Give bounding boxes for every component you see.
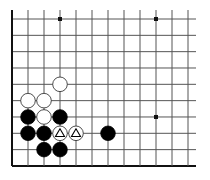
star-point-icon: [154, 115, 158, 119]
black-stone-icon: [21, 110, 36, 125]
black-stone: [53, 110, 68, 125]
black-stone-icon: [37, 126, 52, 141]
black-stone: [53, 142, 68, 157]
white-stone: [53, 77, 68, 92]
black-stone: [21, 126, 36, 141]
go-board: [0, 0, 210, 180]
white-stone-icon: [53, 77, 68, 92]
black-stone: [37, 126, 52, 141]
white-stone-icon: [21, 93, 36, 108]
star-point-icon: [154, 17, 158, 21]
white-stone: [53, 126, 68, 141]
white-stone: [21, 93, 36, 108]
white-stone-icon: [37, 110, 52, 125]
black-stone-icon: [37, 142, 52, 157]
black-stone: [21, 110, 36, 125]
black-stone-icon: [53, 110, 68, 125]
black-stone-icon: [21, 126, 36, 141]
black-stone: [37, 142, 52, 157]
white-stone-icon: [37, 93, 52, 108]
black-stone-icon: [101, 126, 116, 141]
white-stone: [37, 110, 52, 125]
star-point-icon: [58, 17, 62, 21]
white-stone: [37, 93, 52, 108]
black-stone-icon: [53, 142, 68, 157]
board-grid: [12, 10, 196, 166]
white-stone: [69, 126, 84, 141]
black-stone: [101, 126, 116, 141]
